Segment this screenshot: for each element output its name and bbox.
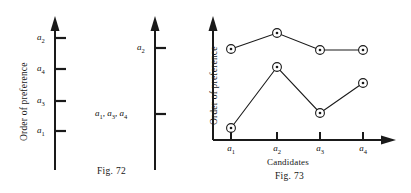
fig73-caption: Fig. 73: [275, 171, 304, 181]
right-axis: [151, 16, 160, 170]
fig73-y-axis-arrowhead: [209, 16, 218, 31]
fig73-y-axis-title: Order of preference: [209, 46, 219, 125]
fig73-xtick-label-a2: a2: [267, 143, 287, 155]
fig73-x-ticks: [231, 132, 363, 140]
fig72-left-tick-label-a4: a4: [37, 63, 45, 75]
figure-72-drawing: [0, 0, 205, 193]
fig72-left-tick-label-a3: a3: [37, 95, 45, 107]
fig73-x-axis-arrowhead: [381, 136, 396, 145]
series-lower-line: [231, 67, 363, 128]
series-upper-line: [231, 33, 363, 50]
fig73-x-axis-title: Candidates: [267, 157, 309, 167]
fig72-right-tick-label-a1-a3-a4: a1, a3, a4: [95, 108, 127, 120]
fig72-caption: Fig. 72: [97, 166, 126, 176]
figure-72: Order of preference a2 a4 a3 a1 a2 a1, a…: [0, 0, 205, 193]
series-lower-marker-dots: [230, 66, 365, 130]
left-axis-arrowhead: [51, 16, 60, 31]
series-upper-marker-dots: [230, 32, 365, 52]
fig72-y-axis-title: Order of preference: [19, 62, 29, 141]
fig73-xtick-label-a4: a4: [353, 143, 373, 155]
fig72-right-tick-label-a2: a2: [137, 42, 145, 54]
fig73-xtick-label-a3: a3: [310, 143, 330, 155]
figure-pair-stage: Order of preference a2 a4 a3 a1 a2 a1, a…: [0, 0, 411, 193]
fig72-left-tick-label-a1: a1: [37, 125, 45, 137]
figure-73: Order of preference a1 a2 a3 a4 Candidat…: [200, 0, 411, 193]
fig73-xtick-label-a1: a1: [221, 143, 241, 155]
fig72-left-tick-label-a2: a2: [37, 32, 45, 44]
left-axis-ticks: [55, 38, 66, 131]
right-axis-arrowhead: [151, 16, 160, 31]
series-lower-markers: [227, 63, 368, 133]
right-axis-ticks: [155, 48, 166, 114]
